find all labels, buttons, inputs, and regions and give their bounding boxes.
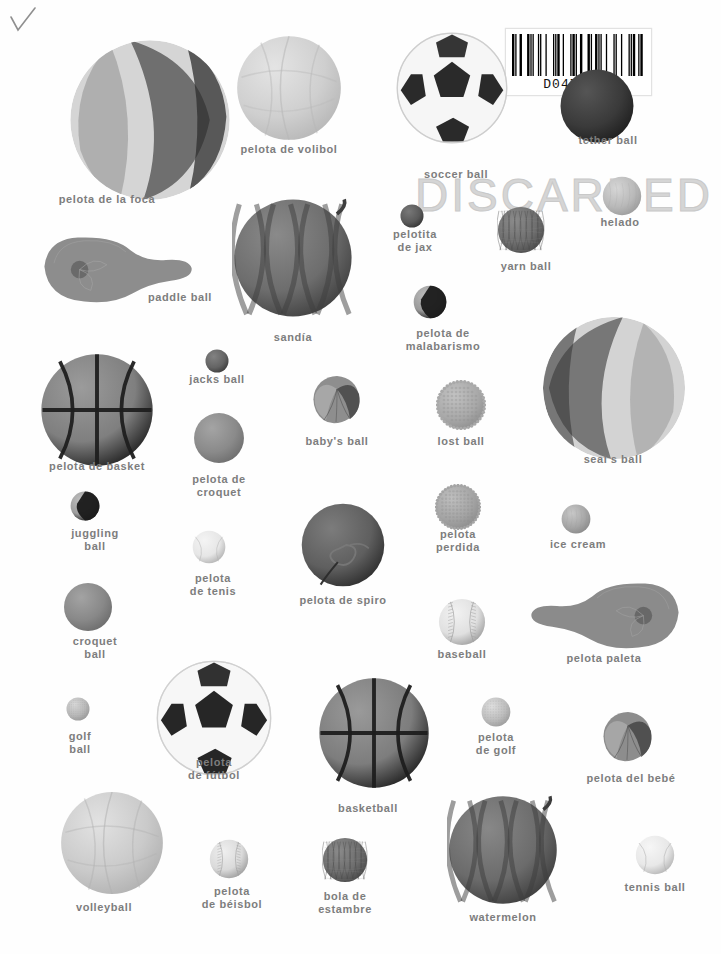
label-pelota-de-volibol: pelota de volibol (241, 143, 338, 156)
object-pelota-de-golf (481, 697, 511, 727)
label-pelota-de-futbol: pelota de fútbol (188, 756, 240, 782)
label-pelota-de-croquet: pelota de croquet (192, 473, 246, 499)
object-pelota-de-tenis (192, 530, 226, 564)
label-lost-ball: lost ball (438, 435, 485, 448)
label-seals-ball: seal's ball (584, 453, 643, 466)
object-croquet-ball (63, 582, 113, 632)
label-sandia: sandía (274, 331, 312, 344)
label-babys-ball: baby's ball (305, 435, 368, 448)
object-yarn-ball (497, 206, 545, 254)
object-pelota-del-bebe (602, 710, 654, 762)
object-helado (602, 176, 642, 216)
label-tether-ball: tether ball (578, 134, 637, 147)
label-tennis-ball: tennis ball (625, 881, 686, 894)
label-pelota-perdida: pelota perdida (436, 528, 480, 554)
label-pelota-de-golf: pelota de golf (476, 731, 516, 757)
object-sandia (232, 197, 354, 319)
object-pelota-perdida (435, 484, 481, 530)
label-juggling-ball: juggling ball (71, 527, 119, 553)
object-babys-ball (312, 374, 362, 424)
label-paddle-ball: paddle ball (148, 291, 212, 304)
label-volleyball: volleyball (76, 901, 132, 914)
label-pelota-de-malabarismo: pelota de malabarismo (406, 327, 480, 353)
object-golf-ball (66, 697, 90, 721)
label-pelota-del-bebe: pelota del bebé (586, 772, 675, 785)
label-pelota-de-la-foca: pelota de la foca (59, 193, 155, 206)
label-pelota-de-spiro: pelota de spiro (299, 594, 386, 607)
label-pelota-de-tenis: pelota de tenis (190, 572, 236, 598)
object-pelota-de-la-foca (67, 37, 233, 203)
label-croquet-ball: croquet ball (73, 635, 118, 661)
label-pelota-de-beisbol: pelota de béisbol (202, 885, 262, 911)
object-soccer-ball (395, 31, 509, 145)
object-pelota-de-beisbol (209, 839, 249, 879)
label-basketball: basketball (338, 802, 398, 815)
label-helado: helado (600, 216, 639, 229)
dictionary-page: DISCARDED D0471024 pelota de la focapelo… (0, 0, 721, 954)
object-tennis-ball (635, 835, 675, 875)
label-watermelon: watermelon (469, 911, 536, 924)
object-lost-ball (436, 380, 486, 430)
object-juggling-ball (70, 491, 100, 521)
label-ice-cream: ice cream (550, 538, 606, 551)
object-jacks-ball (205, 349, 229, 373)
object-ice-cream (561, 504, 591, 534)
object-pelota-paleta (525, 574, 685, 654)
object-pelota-de-spiro (300, 502, 386, 588)
check-mark-icon (8, 6, 38, 36)
object-pelota-de-basket (39, 352, 155, 468)
object-pelota-de-malabarismo (413, 285, 447, 319)
object-pelota-de-volibol (235, 34, 343, 142)
label-pelota-paleta: pelota paleta (566, 652, 641, 665)
label-yarn-ball: yarn ball (501, 260, 552, 273)
object-watermelon (447, 794, 559, 906)
label-bola-de-estambre: bola de estambre (318, 890, 372, 916)
object-seals-ball (540, 314, 688, 462)
object-tether-ball (559, 68, 635, 144)
object-bola-de-estambre (322, 837, 368, 883)
label-soccer-ball: soccer ball (424, 168, 488, 181)
object-baseball (438, 598, 486, 646)
label-pelota-de-basket: pelota de basket (49, 460, 145, 473)
object-pelota-de-croquet (193, 412, 245, 464)
label-golf-ball: golf ball (69, 730, 92, 756)
label-baseball: baseball (438, 648, 487, 661)
object-basketball (317, 676, 431, 790)
object-pelotita-de-jax (400, 204, 424, 228)
label-jacks-ball: jacks ball (189, 373, 245, 386)
object-volleyball (59, 790, 165, 896)
label-pelotita-de-jax: pelotita de jax (393, 228, 437, 254)
